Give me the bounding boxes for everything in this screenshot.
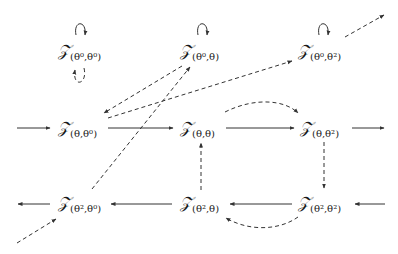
node-theta0-theta0: 𝒵(θ⁰,θ⁰) [57, 41, 101, 62]
node-theta2-theta2: 𝒵(θ²,θ²) [297, 193, 341, 214]
dashed-curve-theta-theta-to-theta-theta2 [225, 102, 298, 113]
svg-text:𝒵(θ⁰,θ): 𝒵(θ⁰,θ) [179, 41, 219, 62]
node-theta-theta0: 𝒵(θ,θ⁰) [57, 118, 97, 139]
svg-text:𝒵(θ⁰,θ⁰): 𝒵(θ⁰,θ⁰) [57, 41, 101, 62]
node-theta-theta2: 𝒵(θ,θ²) [299, 118, 339, 139]
svg-text:𝒵(θ,θ⁰): 𝒵(θ,θ⁰) [57, 118, 97, 139]
svg-text:𝒵(θ²,θ⁰): 𝒵(θ²,θ⁰) [57, 193, 101, 214]
dashed-loop-theta0-theta0 [75, 68, 85, 82]
dashed-edge-in-theta2-theta0 [17, 219, 56, 243]
svg-text:𝒵(θ,θ²): 𝒵(θ,θ²) [299, 118, 339, 139]
dashed-edge-theta-theta0-to-theta0-theta2 [108, 61, 292, 118]
svg-text:𝒵(θ⁰,θ²): 𝒵(θ⁰,θ²) [297, 41, 341, 62]
dashed-edge-theta0-theta2-out [345, 15, 384, 37]
svg-text:𝒵(θ²,θ): 𝒵(θ²,θ) [179, 193, 219, 214]
state-diagram: 𝒵(θ⁰,θ⁰) 𝒵(θ⁰,θ) 𝒵(θ⁰,θ²) 𝒵(θ,θ⁰) 𝒵(θ,θ)… [0, 0, 398, 254]
node-theta0-theta: 𝒵(θ⁰,θ) [179, 41, 219, 62]
svg-text:𝒵(θ,θ): 𝒵(θ,θ) [179, 118, 215, 139]
node-theta2-theta: 𝒵(θ²,θ) [179, 193, 219, 214]
dashed-curve-theta2-theta2-to-theta2-theta [226, 217, 298, 228]
node-theta2-theta0: 𝒵(θ²,θ⁰) [57, 193, 101, 214]
dashed-edge-theta0-theta-to-theta-theta0 [104, 66, 182, 113]
self-loop-theta0-theta [198, 24, 208, 35]
node-theta0-theta2: 𝒵(θ⁰,θ²) [297, 41, 341, 62]
svg-text:𝒵(θ²,θ²): 𝒵(θ²,θ²) [297, 193, 341, 214]
self-loop-theta0-theta2 [319, 24, 329, 35]
node-theta-theta: 𝒵(θ,θ) [179, 118, 215, 139]
self-loop-theta0-theta0 [76, 24, 86, 35]
dashed-edge-theta2-theta0-to-theta0-theta [92, 67, 190, 189]
